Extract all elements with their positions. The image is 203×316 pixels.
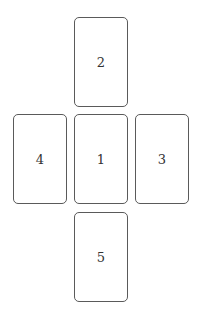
card-label: 2 bbox=[97, 55, 105, 70]
card-position-2: 2 bbox=[74, 17, 128, 107]
card-label: 5 bbox=[97, 250, 105, 265]
card-position-3: 3 bbox=[135, 114, 189, 204]
card-position-1: 1 bbox=[74, 114, 128, 204]
card-label: 3 bbox=[158, 152, 166, 167]
card-position-4: 4 bbox=[13, 114, 67, 204]
card-label: 1 bbox=[97, 152, 105, 167]
card-label: 4 bbox=[36, 152, 44, 167]
card-position-5: 5 bbox=[74, 212, 128, 302]
